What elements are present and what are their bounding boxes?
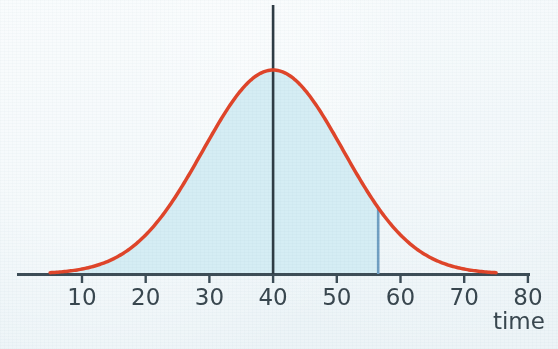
x-tick-label-80: 80 bbox=[513, 286, 542, 309]
x-tick-label-50: 50 bbox=[322, 286, 351, 309]
x-axis-ticks bbox=[82, 275, 528, 283]
x-tick-label-10: 10 bbox=[67, 286, 96, 309]
x-tick-label-40: 40 bbox=[258, 286, 287, 309]
x-axis-title: time bbox=[493, 310, 545, 333]
chart-canvas: 1020304050607080 time bbox=[0, 0, 558, 349]
x-tick-label-60: 60 bbox=[386, 286, 415, 309]
x-tick-label-30: 30 bbox=[195, 286, 224, 309]
x-tick-label-70: 70 bbox=[450, 286, 479, 309]
x-tick-label-20: 20 bbox=[131, 286, 160, 309]
